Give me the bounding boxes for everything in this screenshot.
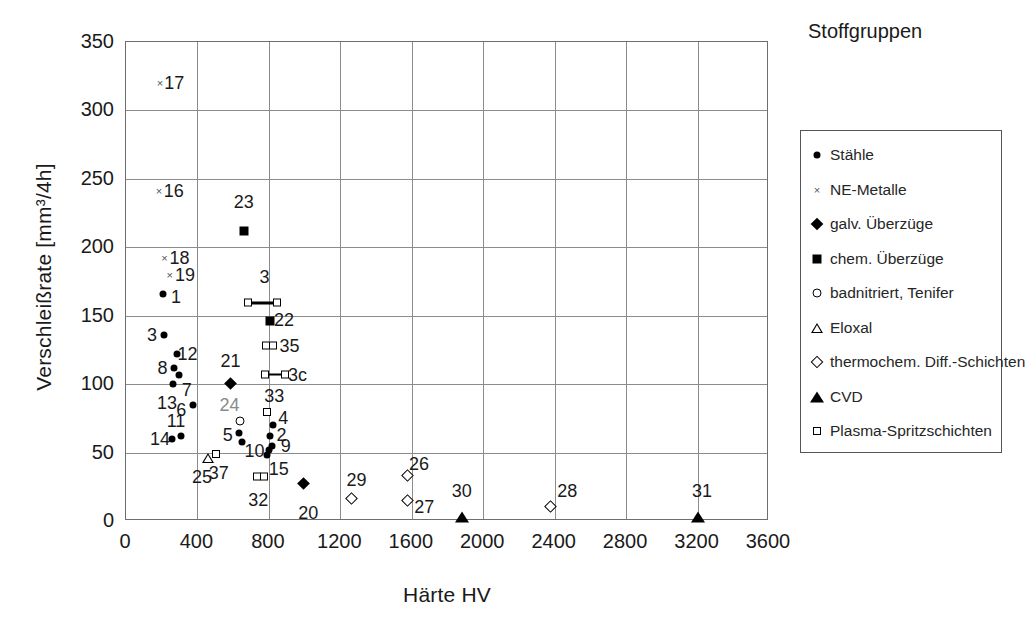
legend-swatch	[809, 423, 825, 439]
legend-item[interactable]: Stähle	[809, 145, 874, 165]
data-point-label: 8	[158, 357, 168, 378]
legend-item[interactable]: Eloxal	[809, 318, 872, 338]
circle-filled-marker	[161, 331, 168, 338]
triangle-open-marker	[811, 323, 823, 333]
scatter-chart: Verschleißrate [mm³/4h] Härte HV 0501001…	[0, 0, 1029, 637]
data-point-label: 30	[452, 480, 472, 501]
cross-marker: ×	[813, 185, 822, 194]
legend-swatch	[809, 354, 825, 370]
data-point-label: 27	[414, 497, 434, 518]
square-open-marker	[263, 408, 271, 416]
y-tick-label: 0	[54, 509, 114, 532]
data-point-label: 35	[279, 335, 299, 356]
cross-marker: ×	[155, 79, 164, 88]
data-point	[230, 384, 239, 393]
data-point-label: 19	[175, 264, 195, 285]
cross-marker: ×	[160, 254, 169, 263]
data-point	[304, 484, 313, 493]
legend-swatch	[809, 147, 825, 163]
data-point	[266, 433, 273, 440]
data-point-label: 25	[192, 467, 212, 488]
y-tick-label: 300	[54, 98, 114, 121]
circle-filled-marker	[159, 290, 166, 297]
circle-open-marker	[813, 289, 822, 298]
data-point-label: 26	[409, 453, 429, 474]
gridline-vertical	[555, 42, 556, 519]
data-point-label: 29	[346, 469, 366, 490]
data-point	[159, 290, 166, 297]
data-point: ×	[165, 270, 174, 279]
legend-item-label: badnitriert, Tenifer	[830, 284, 954, 302]
legend-item[interactable]: CVD	[809, 387, 863, 407]
x-tick-label: 3200	[657, 530, 737, 553]
data-point-label: 9	[281, 435, 291, 456]
data-point	[265, 446, 272, 453]
triangle-open-marker	[202, 453, 214, 463]
diamond-filled-marker	[297, 477, 310, 490]
data-point-label: 3c	[288, 364, 307, 385]
legend-item-label: NE-Metalle	[830, 181, 907, 199]
x-axis-tick-labels: 04008001200160020002400280032003600	[0, 530, 1029, 560]
square-filled-marker	[813, 254, 822, 263]
data-point: ×	[160, 254, 169, 263]
gridline-vertical	[626, 42, 627, 519]
circle-filled-marker	[178, 433, 185, 440]
circle-filled-marker	[265, 446, 272, 453]
data-point-label: 32	[248, 490, 268, 511]
data-point-label: 22	[274, 309, 294, 330]
diamond-filled-marker	[811, 218, 824, 231]
data-point	[455, 511, 469, 522]
data-point	[178, 433, 185, 440]
data-point-label: 10	[245, 441, 265, 462]
x-tick-label: 3600	[728, 530, 808, 553]
data-point	[263, 408, 271, 416]
legend-swatch	[809, 320, 825, 336]
legend-item-label: CVD	[830, 388, 863, 406]
data-point-label: 15	[269, 458, 289, 479]
range-bar	[244, 299, 282, 308]
cross-marker: ×	[155, 187, 164, 196]
data-point-label: 3	[147, 324, 157, 345]
data-point-label: 12	[178, 344, 198, 365]
legend-item[interactable]: galv. Überzüge	[809, 214, 933, 234]
legend-item[interactable]: Plasma-Spritzschichten	[809, 421, 992, 441]
x-tick-label: 1200	[299, 530, 379, 553]
legend-swatch	[809, 285, 825, 301]
data-point-label: 23	[234, 192, 254, 213]
y-tick-label: 50	[54, 440, 114, 463]
data-point	[202, 453, 214, 463]
square-open-marker	[261, 370, 269, 378]
legend-item[interactable]: chem. Überzüge	[809, 249, 944, 269]
legend-item[interactable]: thermochem. Diff.-Schichten	[809, 352, 1025, 372]
gridline-vertical	[340, 42, 341, 519]
x-tick-label: 0	[85, 530, 165, 553]
data-point-label: 20	[298, 502, 318, 523]
data-point-label: 14	[150, 428, 170, 449]
circle-filled-marker	[175, 371, 182, 378]
data-point	[691, 511, 705, 522]
legend-item[interactable]: ×NE-Metalle	[809, 180, 907, 200]
legend-title: Stoffgruppen	[808, 20, 922, 43]
gridline-vertical	[197, 42, 198, 519]
x-tick-label: 400	[156, 530, 236, 553]
data-point: ×	[155, 79, 164, 88]
legend: Stähle×NE-Metallegalv. Überzügechem. Übe…	[800, 130, 1002, 453]
square-open-marker	[273, 299, 281, 307]
diamond-filled-marker	[224, 377, 237, 390]
data-point-label: 21	[220, 350, 240, 371]
data-point-label: 17	[164, 73, 184, 94]
y-tick-label: 200	[54, 235, 114, 258]
legend-swatch	[809, 216, 825, 232]
x-axis-title: Härte HV	[125, 583, 769, 607]
gridline-horizontal	[126, 384, 767, 385]
gridline-vertical	[483, 42, 484, 519]
data-point	[236, 430, 243, 437]
cross-marker: ×	[165, 270, 174, 279]
gridline-vertical	[412, 42, 413, 519]
data-point	[236, 417, 245, 426]
gridline-horizontal	[126, 316, 767, 317]
legend-item-label: chem. Überzüge	[830, 250, 944, 268]
data-point-label: 5	[223, 424, 233, 445]
legend-item[interactable]: badnitriert, Tenifer	[809, 283, 954, 303]
legend-swatch	[809, 389, 825, 405]
